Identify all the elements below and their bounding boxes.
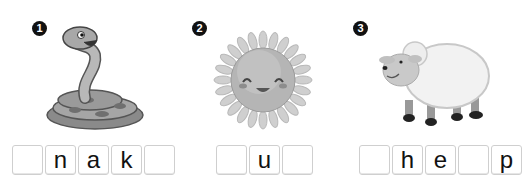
letter-box[interactable] xyxy=(282,145,313,175)
letter-box[interactable]: e xyxy=(425,145,456,175)
letter-box-row: n a k xyxy=(12,145,175,175)
letter-box[interactable] xyxy=(12,145,43,175)
letter-box-row: u xyxy=(216,145,313,175)
sun-ray-icon xyxy=(214,76,232,84)
letter-box[interactable]: h xyxy=(392,145,423,175)
letter-box[interactable] xyxy=(458,145,489,175)
exercise-number-badge: 3 xyxy=(353,21,368,36)
letter-box[interactable] xyxy=(216,145,247,175)
sheep-illustration xyxy=(375,32,495,132)
exercise-number-badge: 2 xyxy=(192,21,207,36)
letter-box[interactable] xyxy=(144,145,175,175)
letter-box[interactable]: a xyxy=(78,145,109,175)
snake-illustration xyxy=(40,20,150,135)
sun-ray-icon xyxy=(259,31,267,49)
letter-box[interactable]: p xyxy=(491,145,522,175)
letter-box[interactable]: u xyxy=(249,145,280,175)
letter-box[interactable]: n xyxy=(45,145,76,175)
letter-box[interactable] xyxy=(359,145,390,175)
letter-box[interactable]: k xyxy=(111,145,142,175)
sun-illustration xyxy=(213,30,313,130)
sun-ray-icon xyxy=(294,76,312,84)
letter-box-row: h e p xyxy=(359,145,522,175)
sun-ray-icon xyxy=(259,111,267,129)
